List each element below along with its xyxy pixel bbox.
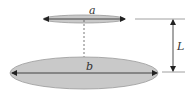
- label-b: b: [86, 60, 93, 73]
- diagram-canvas: a b L: [0, 0, 195, 94]
- label-a: a: [89, 4, 96, 17]
- label-L: L: [176, 40, 184, 53]
